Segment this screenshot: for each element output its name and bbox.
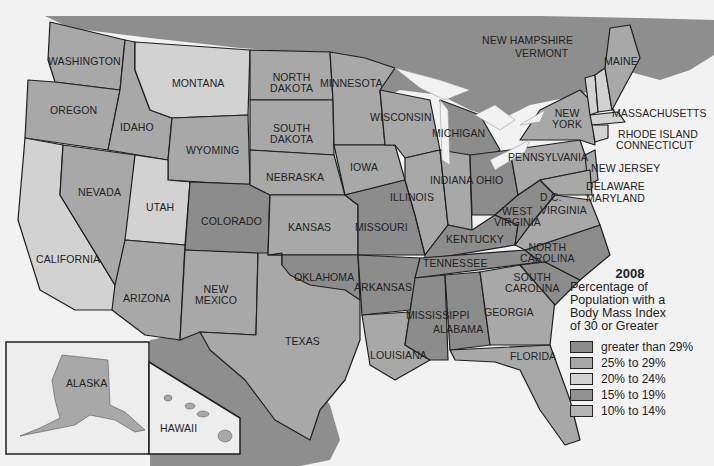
label-kentucky: KENTUCKY <box>446 234 504 245</box>
label-pennsylvania: PENNSYLVANIA <box>508 152 588 163</box>
label-georgia: GEORGIA <box>484 307 534 318</box>
legend-label: greater than 29% <box>601 340 693 354</box>
label-north-dakota: NORTHDAKOTA <box>270 72 313 94</box>
label-hawaii: HAWAII <box>160 423 197 434</box>
label-alaska: ALASKA <box>66 378 107 389</box>
label-delaware: DELAWARE <box>586 181 645 192</box>
legend-item: 20% to 24% <box>570 371 710 387</box>
legend-item: 10% to 14% <box>570 403 710 419</box>
label-north-dakota-2: DAKOTA <box>270 82 313 94</box>
label-vermont: VERMONT <box>515 48 568 59</box>
legend-swatch <box>570 373 593 385</box>
label-colorado: COLORADO <box>201 216 262 227</box>
label-indiana: INDIANA <box>430 175 473 186</box>
label-oklahoma: OKLAHOMA <box>294 272 354 283</box>
label-south-carolina: SOUTHCAROLINA <box>505 272 559 294</box>
legend-label: 10% to 14% <box>601 404 666 418</box>
label-washington: WASHINGTON <box>48 56 121 67</box>
legend-item: 15% to 19% <box>570 387 710 403</box>
label-new-york-2: YORK <box>552 118 582 130</box>
label-dc: D.C. <box>540 192 561 203</box>
label-massachusetts: MASSACHUSETTS <box>612 108 707 119</box>
label-louisiana: LOUISIANA <box>370 350 427 361</box>
legend-label: 15% to 19% <box>601 388 666 402</box>
legend-label: 25% to 29% <box>601 356 666 370</box>
legend-item: 25% to 29% <box>570 355 710 371</box>
label-missouri: MISSOURI <box>355 222 408 233</box>
label-michigan: MICHIGAN <box>432 128 485 139</box>
label-florida: FLORIDA <box>510 351 556 362</box>
label-new-jersey: NEW JERSEY <box>591 163 660 174</box>
label-montana: MONTANA <box>172 78 224 89</box>
label-oregon: OREGON <box>50 105 97 116</box>
label-rhode-island: RHODE ISLAND <box>618 129 698 140</box>
label-maryland: MARYLAND <box>586 193 645 204</box>
label-new-mexico-2: MEXICO <box>195 294 237 306</box>
map-legend: 2008 Percentage of Population with a Bod… <box>570 266 710 419</box>
label-mississippi: MISSISSIPPI <box>406 310 470 321</box>
label-kansas: KANSAS <box>288 222 331 233</box>
label-new-mexico: NEWMEXICO <box>195 284 237 306</box>
label-south-dakota: SOUTHDAKOTA <box>270 123 313 145</box>
label-connecticut: CONNECTICUT <box>616 140 694 151</box>
label-illinois: ILLINOIS <box>390 192 434 203</box>
label-utah: UTAH <box>146 202 174 213</box>
label-north-carolina-2: CAROLINA <box>520 252 574 264</box>
legend-swatch <box>570 389 593 401</box>
label-north-carolina: NORTHCAROLINA <box>520 242 574 264</box>
label-wyoming: WYOMING <box>186 145 239 156</box>
label-california: CALIFORNIA <box>36 254 100 265</box>
label-west-virginia-2: VIRGINIA <box>494 216 541 228</box>
label-nebraska: NEBRASKA <box>266 172 324 183</box>
label-south-dakota-2: DAKOTA <box>270 133 313 145</box>
label-new-hampshire: NEW HAMPSHIRE <box>482 35 573 46</box>
label-new-york: NEWYORK <box>552 108 582 130</box>
legend-label: 20% to 24% <box>601 372 666 386</box>
label-wisconsin: WISCONSIN <box>370 112 432 123</box>
legend-swatch <box>570 357 593 369</box>
label-minnesota: MINNESOTA <box>320 78 383 89</box>
label-nevada: NEVADA <box>78 187 121 198</box>
label-maine: MAINE <box>604 56 638 67</box>
legend-year: 2008 <box>570 266 690 281</box>
legend-swatch <box>570 405 593 417</box>
legend-item: greater than 29% <box>570 339 710 355</box>
label-virginia: VIRGINIA <box>540 205 587 216</box>
legend-title-line: of 30 or Greater <box>570 320 710 333</box>
label-south-carolina-2: CAROLINA <box>505 282 559 294</box>
label-ohio: OHIO <box>476 175 503 186</box>
label-tennessee: TENNESSEE <box>423 258 488 269</box>
label-arkansas: ARKANSAS <box>354 282 412 293</box>
label-texas: TEXAS <box>285 336 320 347</box>
label-arizona: ARIZONA <box>123 293 170 304</box>
legend-title: Percentage of Population with a Body Mas… <box>570 281 710 333</box>
label-idaho: IDAHO <box>120 122 154 133</box>
legend-swatch <box>570 341 593 353</box>
label-iowa: IOWA <box>350 162 378 173</box>
label-west-virginia: WESTVIRGINIA <box>494 206 541 228</box>
label-alabama: ALABAMA <box>433 324 483 335</box>
